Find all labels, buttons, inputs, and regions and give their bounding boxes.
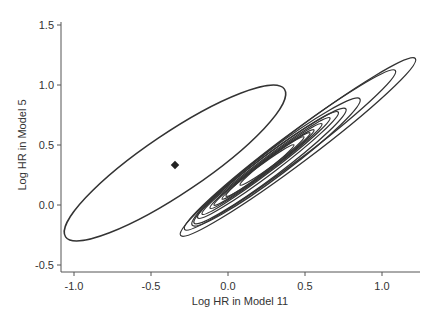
chart: 1.5 1.0 0.5 0.0 -0.5 -1.0 -0.5 0.0 0.5 1…: [0, 0, 430, 320]
x-axis-label: Log HR in Model 11: [192, 295, 288, 307]
x-tick: 1.0: [374, 280, 389, 292]
y-tick: 0.5: [39, 139, 54, 151]
diamond-point: [171, 161, 179, 169]
y-tick: 0.0: [39, 199, 54, 211]
y-tick: 1.0: [39, 79, 54, 91]
x-tick: 0.5: [297, 280, 312, 292]
y-tick: 1.5: [39, 19, 54, 31]
y-tick: -0.5: [35, 259, 54, 271]
ellipse-cluster: [172, 47, 425, 248]
x-tick: -0.5: [142, 280, 161, 292]
x-tick: 0.0: [220, 280, 235, 292]
y-axis-label: Log HR in Model 5: [16, 99, 28, 190]
x-tick: -1.0: [65, 280, 84, 292]
